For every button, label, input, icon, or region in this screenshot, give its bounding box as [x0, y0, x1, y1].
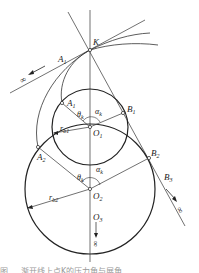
label-infinity-bottom: ∞	[91, 241, 100, 247]
label-rb2: rb2	[49, 193, 58, 203]
label-o3: O3	[93, 212, 103, 223]
tangent-line-k	[10, 20, 145, 93]
figure-caption: 图 … 渐开线上点K的压力角与展角	[0, 265, 199, 273]
involute-diagram: K A1 A1 B1 O1 θk αk rb1 A2 B2 θk αk O2 r…	[0, 0, 199, 273]
label-b2: B2	[151, 148, 160, 159]
label-b1: B1	[127, 104, 136, 115]
point-o1	[88, 125, 91, 128]
label-alpha-k-1: αk	[95, 107, 102, 117]
arrow-head-o3-icon	[94, 233, 98, 238]
label-alpha-k-2: αk	[96, 165, 103, 175]
point-b1	[121, 111, 124, 114]
label-theta-k-2: θk	[77, 173, 84, 183]
label-o2: O2	[93, 191, 103, 202]
angle-arc-1	[83, 117, 100, 122]
label-o1: O1	[93, 128, 103, 139]
angle-arc-2	[82, 178, 100, 185]
point-k	[88, 48, 91, 51]
label-a2: A2	[36, 152, 46, 163]
label-infinity-right: ∞	[175, 205, 186, 215]
label-rb1: rb1	[60, 124, 69, 134]
label-a1: A1	[66, 98, 76, 109]
point-a1	[60, 101, 63, 104]
point-o2	[88, 187, 91, 190]
point-a2	[36, 145, 39, 148]
label-k: K	[92, 37, 100, 47]
label-a1-tangent: A1	[57, 54, 67, 65]
arrow-head-left-icon	[28, 70, 34, 75]
label-theta-k-1: θk	[77, 110, 84, 120]
radius-rb2	[28, 189, 90, 208]
label-b3: B3	[164, 172, 173, 183]
